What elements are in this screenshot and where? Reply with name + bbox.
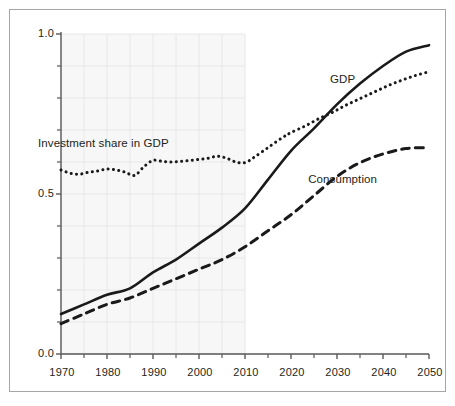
x-axis-tick-label: 2010 [221, 366, 271, 378]
y-axis-tick-label: 0.0 [14, 347, 54, 359]
series-label-gdp: GDP [330, 73, 355, 85]
x-axis-tick-label: 2050 [405, 366, 455, 378]
line-chart-plot [10, 10, 445, 391]
x-axis-tick-label: 2020 [267, 366, 317, 378]
x-axis-tick-label: 2030 [313, 366, 363, 378]
chart-figure: 1.00.50.01970198019902000201020202030204… [0, 0, 455, 406]
x-axis-tick-label: 1970 [37, 366, 87, 378]
series-label-consumption: Consumption [308, 173, 377, 185]
x-axis-tick-label: 1980 [83, 366, 133, 378]
series-label-investment-share-in-gdp: Investment share in GDP [38, 137, 169, 149]
x-axis-tick-label: 2040 [359, 366, 409, 378]
y-axis-tick-label: 1.0 [14, 27, 54, 39]
chart-frame-border: 1.00.50.01970198019902000201020202030204… [9, 9, 446, 392]
x-axis-tick-label: 2000 [175, 366, 225, 378]
x-axis-tick-label: 1990 [129, 366, 179, 378]
y-axis-tick-label: 0.5 [14, 187, 54, 199]
